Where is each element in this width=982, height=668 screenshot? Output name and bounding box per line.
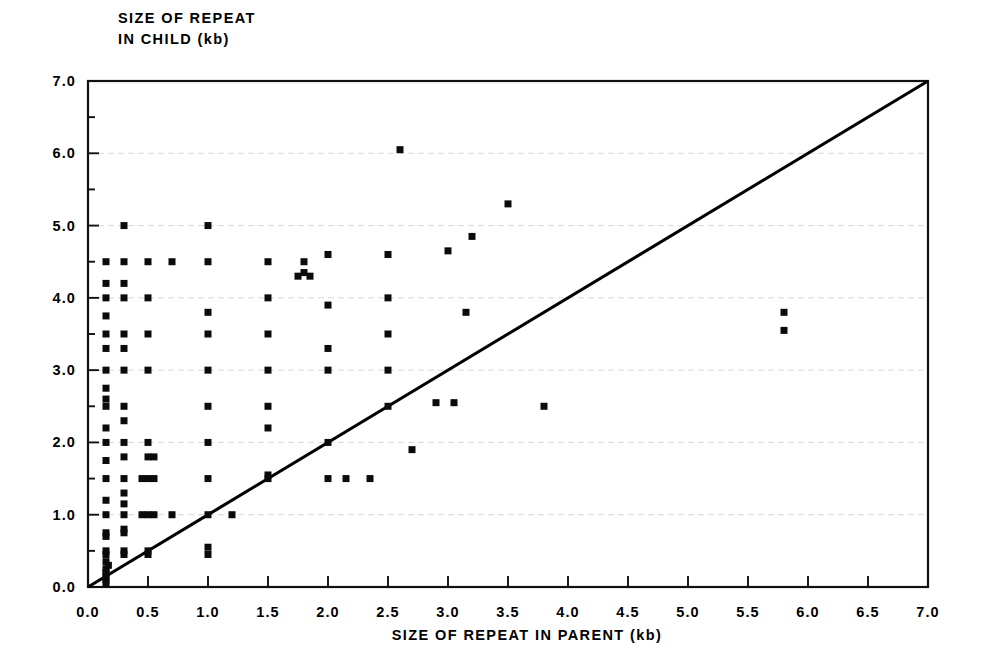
data-point bbox=[325, 439, 332, 446]
y-tick-label: 4.0 bbox=[53, 290, 76, 306]
y-tick-label: 1.0 bbox=[53, 507, 76, 523]
data-point bbox=[151, 511, 158, 518]
data-point bbox=[103, 439, 110, 446]
scatter-plot-figure: SIZE OF REPEATIN CHILD (kb) 0.00.51.01.5… bbox=[0, 0, 982, 668]
data-point bbox=[103, 457, 110, 464]
x-tick-label: 4.5 bbox=[616, 604, 639, 620]
data-point bbox=[121, 280, 128, 287]
data-point bbox=[409, 446, 416, 453]
data-point bbox=[121, 490, 128, 497]
y-tick-label: 3.0 bbox=[53, 362, 76, 378]
data-point bbox=[265, 331, 272, 338]
data-point bbox=[205, 222, 212, 229]
data-point bbox=[367, 475, 374, 482]
data-point bbox=[265, 294, 272, 301]
data-point bbox=[451, 399, 458, 406]
data-point bbox=[103, 529, 110, 536]
data-point bbox=[103, 345, 110, 352]
y-tick-label: 6.0 bbox=[53, 145, 76, 161]
plot-canvas bbox=[0, 0, 982, 668]
data-point bbox=[169, 511, 176, 518]
data-point bbox=[145, 511, 152, 518]
data-point bbox=[205, 551, 212, 558]
x-tick-label: 3.0 bbox=[436, 604, 459, 620]
data-point bbox=[343, 475, 350, 482]
data-point bbox=[463, 309, 470, 316]
data-point bbox=[433, 399, 440, 406]
data-point bbox=[121, 475, 128, 482]
x-tick-label: 1.0 bbox=[196, 604, 219, 620]
data-point bbox=[103, 424, 110, 431]
data-point bbox=[121, 258, 128, 265]
data-point bbox=[103, 280, 110, 287]
x-tick-label: 0.5 bbox=[136, 604, 159, 620]
y-tick-label: 7.0 bbox=[53, 73, 76, 89]
data-point bbox=[103, 396, 110, 403]
y-tick-label: 2.0 bbox=[53, 434, 76, 450]
data-point bbox=[151, 453, 158, 460]
data-point bbox=[205, 544, 212, 551]
data-point bbox=[307, 273, 314, 280]
data-point bbox=[385, 403, 392, 410]
data-point bbox=[445, 247, 452, 254]
data-point bbox=[265, 403, 272, 410]
x-tick-label: 2.5 bbox=[376, 604, 399, 620]
data-point bbox=[145, 367, 152, 374]
data-point bbox=[469, 233, 476, 240]
data-point bbox=[205, 439, 212, 446]
data-point bbox=[145, 439, 152, 446]
data-point bbox=[295, 273, 302, 280]
data-point bbox=[121, 526, 128, 533]
data-point bbox=[205, 475, 212, 482]
data-point bbox=[121, 439, 128, 446]
data-point bbox=[541, 403, 548, 410]
data-point bbox=[145, 453, 152, 460]
data-point bbox=[397, 146, 404, 153]
data-point bbox=[385, 294, 392, 301]
data-point bbox=[385, 367, 392, 374]
data-point bbox=[205, 258, 212, 265]
data-point bbox=[139, 475, 146, 482]
x-tick-label: 6.0 bbox=[796, 604, 819, 620]
data-point bbox=[121, 551, 128, 558]
x-axis-title: SIZE OF REPEAT IN PARENT (kb) bbox=[0, 627, 982, 643]
data-point bbox=[145, 547, 152, 554]
data-point bbox=[505, 200, 512, 207]
data-point bbox=[121, 345, 128, 352]
data-point bbox=[781, 327, 788, 334]
data-point bbox=[103, 403, 110, 410]
data-point bbox=[325, 251, 332, 258]
data-point bbox=[121, 511, 128, 518]
data-point bbox=[325, 475, 332, 482]
data-point bbox=[121, 500, 128, 507]
data-point bbox=[325, 367, 332, 374]
data-point bbox=[103, 312, 110, 319]
data-point bbox=[103, 547, 110, 554]
x-tick-label: 4.0 bbox=[556, 604, 579, 620]
data-point bbox=[205, 331, 212, 338]
data-point bbox=[265, 471, 272, 478]
data-point bbox=[121, 417, 128, 424]
data-point bbox=[121, 453, 128, 460]
data-point bbox=[205, 309, 212, 316]
data-points-group bbox=[103, 146, 788, 587]
x-tick-label: 5.0 bbox=[676, 604, 699, 620]
data-point bbox=[151, 475, 158, 482]
data-point bbox=[169, 258, 176, 265]
data-point bbox=[205, 511, 212, 518]
data-point bbox=[265, 258, 272, 265]
data-point bbox=[103, 258, 110, 265]
data-point bbox=[385, 251, 392, 258]
data-point bbox=[103, 511, 110, 518]
x-tick-label: 2.0 bbox=[316, 604, 339, 620]
data-point bbox=[121, 403, 128, 410]
data-point bbox=[265, 424, 272, 431]
data-point bbox=[121, 222, 128, 229]
data-point bbox=[229, 511, 236, 518]
data-point bbox=[139, 511, 146, 518]
data-point bbox=[121, 331, 128, 338]
data-point bbox=[121, 367, 128, 374]
x-tick-label: 5.5 bbox=[736, 604, 759, 620]
y-tick-label: 0.0 bbox=[53, 579, 76, 595]
data-point bbox=[325, 302, 332, 309]
